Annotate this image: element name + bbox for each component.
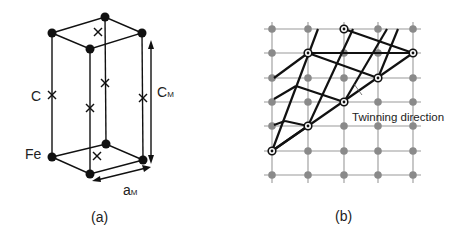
caption-a: (a) — [91, 209, 108, 225]
c-atom-x-icon — [94, 28, 102, 36]
label-cm: CM — [157, 84, 174, 100]
fe-atom — [48, 29, 57, 38]
twinning-direction-label: Twinning direction — [352, 111, 444, 123]
fe-atom — [48, 153, 57, 162]
fe-atom — [102, 140, 111, 149]
c-atom-x-icon — [93, 152, 101, 160]
caption-b: (b) — [335, 208, 352, 224]
label-c: C — [31, 88, 41, 104]
label-fe: Fe — [25, 146, 42, 162]
fe-atom — [86, 45, 95, 54]
bottom-face-back — [52, 144, 143, 160]
fe-atom — [86, 170, 95, 179]
label-am: aM — [123, 182, 138, 198]
twinned-lattice — [272, 29, 413, 151]
unit-cell-diagram — [52, 17, 143, 174]
c-atoms — [48, 28, 147, 160]
edge — [105, 17, 106, 144]
fe-atom — [101, 13, 110, 22]
am-dimension-arrow — [92, 165, 151, 182]
fe-atom — [138, 29, 147, 38]
figure-canvas: C Fe CM aM (a) — [0, 0, 472, 233]
fe-atom — [139, 156, 148, 165]
cm-dimension-arrow — [148, 40, 154, 164]
